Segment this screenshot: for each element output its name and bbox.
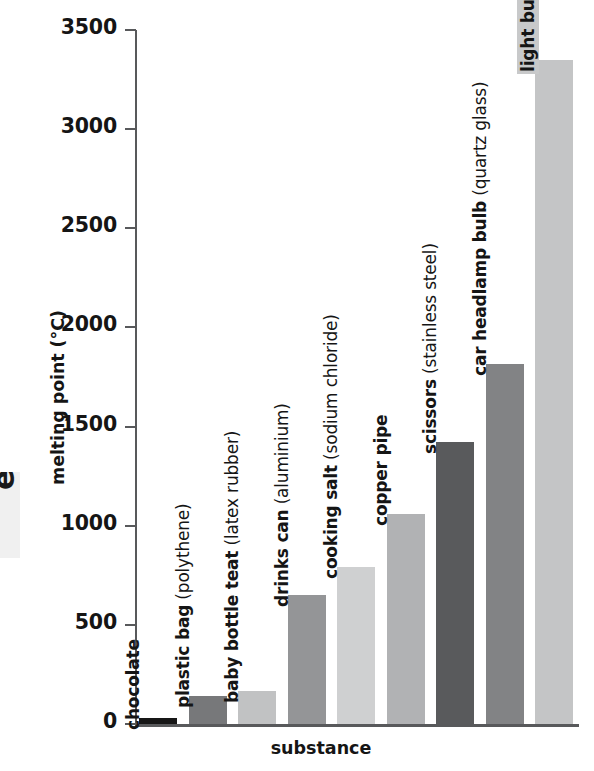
bar-label-name: copper pipe bbox=[371, 414, 391, 525]
bar bbox=[288, 595, 326, 724]
bar bbox=[139, 718, 177, 724]
bar-category-label: car headlamp bulb (quartz glass) bbox=[470, 82, 490, 376]
bar-category-label: scissors (stainless steel) bbox=[420, 244, 440, 455]
x-axis-title-label: substance bbox=[271, 738, 372, 758]
bar-label-name: plastic bag bbox=[173, 605, 193, 708]
bar-label-material: (polythene) bbox=[173, 504, 193, 605]
bar bbox=[436, 442, 474, 724]
bar-category-label: chocolate bbox=[123, 639, 143, 730]
bar-label-name: baby bottle teat bbox=[222, 551, 242, 703]
bar-label-material: (quartz glass) bbox=[470, 82, 490, 201]
bar-category-label: plastic bag (polythene) bbox=[173, 504, 193, 709]
bar-category-label: light bulb filament (tungsten) bbox=[517, 0, 539, 74]
bar bbox=[535, 60, 573, 724]
bar bbox=[189, 696, 227, 724]
bar-category-label: copper pipe bbox=[371, 414, 391, 525]
bar-label-material: (stainless steel) bbox=[420, 244, 440, 380]
bar-label-material: (sodium chloride) bbox=[321, 315, 341, 466]
bar-label-name: scissors bbox=[420, 380, 440, 455]
x-axis-title: substance bbox=[135, 738, 579, 758]
bar-label-name: chocolate bbox=[123, 639, 143, 730]
bar bbox=[337, 567, 375, 724]
bar bbox=[486, 364, 524, 724]
bar-category-label: cooking salt (sodium chloride) bbox=[321, 315, 341, 580]
bar-label-name: light bulb filament bbox=[518, 0, 538, 72]
bar-label-name: cooking salt bbox=[321, 465, 341, 579]
bar bbox=[238, 691, 276, 724]
bar-label-material: (aluminium) bbox=[272, 403, 292, 509]
bar bbox=[387, 514, 425, 724]
plot-area: chocolateplastic bag (polythene)baby bot… bbox=[0, 0, 594, 771]
bar-label-name: drinks can bbox=[272, 510, 292, 607]
bar-label-material: (latex rubber) bbox=[222, 431, 242, 551]
bar-category-label: drinks can (aluminium) bbox=[272, 403, 292, 607]
bar-chart: e melting point (°C) 0500100015002000250… bbox=[0, 0, 594, 771]
bar-label-name: car headlamp bulb bbox=[470, 201, 490, 376]
bar-category-label: baby bottle teat (latex rubber) bbox=[222, 431, 242, 703]
